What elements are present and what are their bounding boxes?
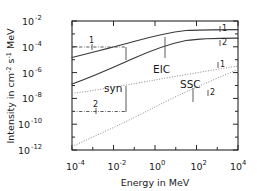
x-tick-exp-4: 4: [242, 159, 246, 167]
plot-frame: [72, 21, 238, 150]
y-axis-title-lead: Intensity in cm: [5, 73, 16, 144]
figure-container: 10 -2 10 -4 10 -6 10 -8 10 -10 10 -12 10…: [0, 0, 257, 191]
x-tick-exp-1: -2: [120, 159, 127, 167]
y-tick-mantissa: 10: [22, 93, 34, 104]
y-tick-exp-2: -6: [35, 66, 42, 74]
y-axis-title-tail: MeV: [5, 28, 16, 52]
svg-text:Intensity in cm-2 s-1 MeV: Intensity in cm-2 s-1 MeV: [5, 28, 17, 144]
y-tick-exp-1: -4: [35, 40, 42, 48]
y-tick-labels: 10 -2 10 -4 10 -6 10 -8 10 -10 10 -12: [18, 14, 42, 156]
x-tick-mantissa: 10: [66, 161, 78, 172]
x-axis-ticks: [72, 21, 238, 150]
y-tick-exp-3: -8: [35, 91, 42, 99]
y-axis-ticks: [72, 21, 238, 150]
series-eic-2: [72, 38, 238, 84]
y-tick-mantissa: 10: [18, 145, 30, 156]
y-tick-exp-5: -12: [31, 143, 42, 151]
y-tick-exp-0: -2: [35, 14, 42, 22]
annotation-ssc: SSC: [180, 78, 201, 90]
y-tick-mantissa: 10: [22, 68, 34, 79]
x-tick-exp-0: -4: [78, 159, 85, 167]
curve-tag-syn-2: 2: [93, 100, 98, 109]
x-tick-exp-3: 2: [203, 159, 207, 167]
y-tick-mantissa: 10: [18, 119, 30, 130]
x-tick-labels: 10 -4 10 -2 10 0 10 2 10 4: [66, 159, 246, 172]
x-tick-mantissa: 10: [191, 161, 203, 172]
chart-svg: 10 -2 10 -4 10 -6 10 -8 10 -10 10 -12 10…: [0, 0, 257, 191]
curve-tag-ssc-1: 1: [220, 60, 225, 69]
series-eic-1: [72, 30, 238, 58]
curve-tag-syn-1: 1: [89, 36, 94, 45]
annotation-eic: EIC: [153, 63, 170, 75]
curve-tag-eic-1: 1: [222, 24, 227, 33]
curve-tag-eic-2: 2: [222, 38, 227, 47]
y-tick-mantissa: 10: [22, 42, 34, 53]
x-tick-mantissa: 10: [108, 161, 120, 172]
x-tick-exp-2: 0: [161, 159, 165, 167]
y-axis-title: Intensity in cm-2 s-1 MeV: [5, 28, 17, 144]
curve-tag-ssc-2: 2: [210, 88, 215, 97]
y-tick-mantissa: 10: [22, 16, 34, 27]
y-axis-title-mid: s: [5, 58, 16, 66]
x-axis-title: Energy in MeV: [121, 177, 190, 188]
x-tick-mantissa: 10: [149, 161, 161, 172]
y-tick-exp-4: -10: [31, 117, 42, 125]
x-tick-mantissa: 10: [230, 161, 242, 172]
annotation-syn: syn: [104, 82, 122, 94]
